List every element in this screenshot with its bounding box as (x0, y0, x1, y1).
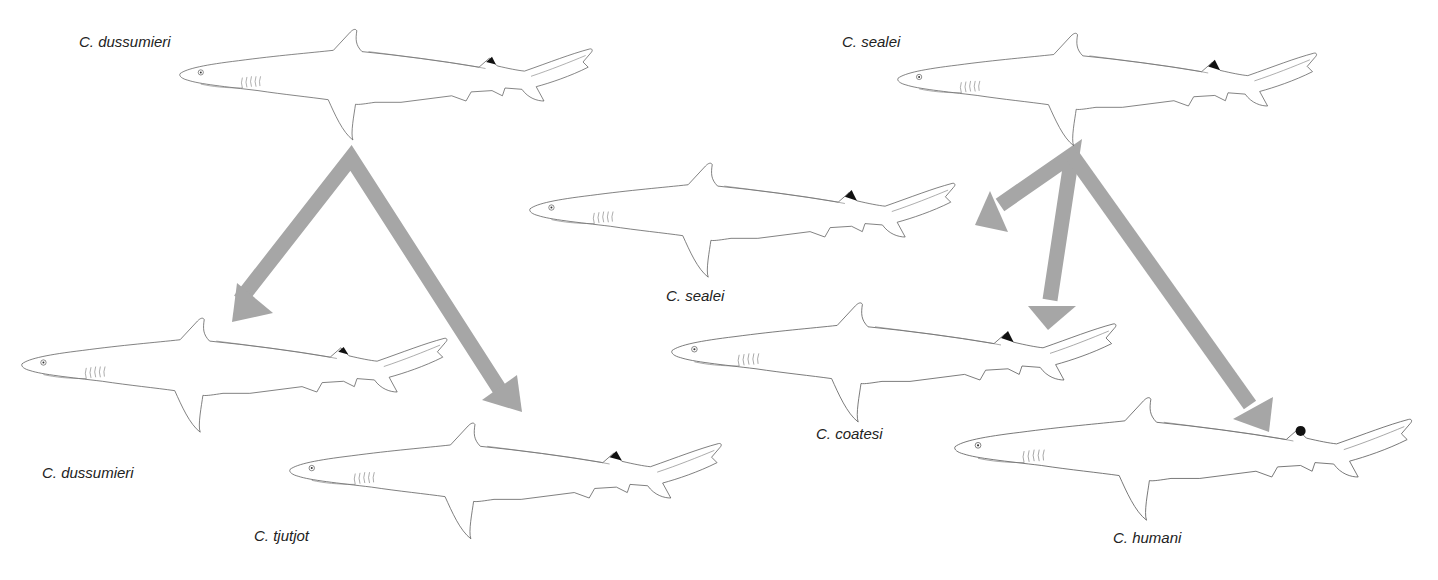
label-tjutjot: C. tjutjot (254, 527, 309, 544)
arrow-group-sealei (975, 155, 1273, 432)
shark-illustration-humani (955, 398, 1412, 521)
label-dussumieri-parent: C. dussumieri (79, 33, 171, 50)
shark-illustration-dussumieri-parent (180, 29, 592, 140)
label-dussumieri-child: C. dussumieri (42, 464, 134, 481)
label-sealei-parent: C. sealei (842, 33, 900, 50)
shark-illustration-sealei-parent (898, 33, 1317, 145)
arrowhead-to-coatesi (1028, 306, 1076, 330)
label-humani: C. humani (1113, 529, 1181, 546)
shark-illustration-dussumieri-child (22, 318, 447, 432)
shark-illustration-tjutjot (290, 423, 722, 539)
shark-illustration-sealei-child (530, 163, 955, 277)
label-coatesi: C. coatesi (816, 425, 883, 442)
label-sealei-child: C. sealei (666, 287, 724, 304)
